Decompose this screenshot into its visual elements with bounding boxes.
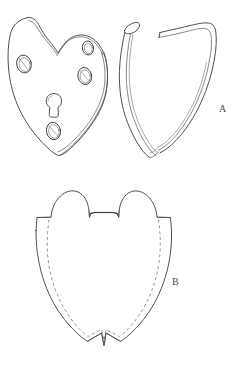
plate-outline <box>8 17 108 155</box>
strip-left-cut-end <box>124 22 139 33</box>
keyhole-inner-shadow <box>48 96 52 101</box>
rivet-hole-left <box>15 54 34 75</box>
binding-strip-perspective-view <box>119 22 216 157</box>
development-lobe-notch-right <box>119 211 120 218</box>
strip-bottom-point-junction <box>155 152 158 155</box>
rivet-hole-bottom <box>45 121 62 141</box>
figure-label-b: B <box>172 277 179 287</box>
development-outline <box>36 191 172 346</box>
line-drawing-svg <box>0 0 243 367</box>
keyhole-outline <box>46 94 61 118</box>
strip-thickness-line-left <box>129 34 157 152</box>
development-fold-line <box>47 220 104 341</box>
drawing-canvas: A B <box>0 0 243 367</box>
development-fold-line-right <box>104 220 160 341</box>
development-bottom-v-left <box>88 333 104 345</box>
figure-label-a: A <box>219 104 227 114</box>
strip-inner-edge-right <box>158 62 209 151</box>
development-bottom-v-right <box>104 333 120 345</box>
keyhole <box>46 94 61 118</box>
development-lobe-notch-left <box>89 211 90 218</box>
rivet-hole-mid-right <box>76 66 93 86</box>
strip-bottom-left-tip <box>150 155 156 157</box>
strip-top-flange-upper <box>160 23 216 59</box>
plate-center-dip-line <box>57 37 81 56</box>
strip-thickness-line-right <box>158 63 207 148</box>
plate-left-lobe-ridge <box>29 21 57 55</box>
strip-outer-edge-right <box>160 59 215 153</box>
escutcheon-plate-front-view <box>8 17 108 155</box>
strip-top-flange-lower <box>159 28 211 61</box>
binding-strip-development-view <box>36 191 172 346</box>
rivet-hole-upper-right <box>81 40 94 56</box>
strip-outer-edge-left <box>119 32 149 157</box>
strip-flange-left-end <box>159 33 160 38</box>
